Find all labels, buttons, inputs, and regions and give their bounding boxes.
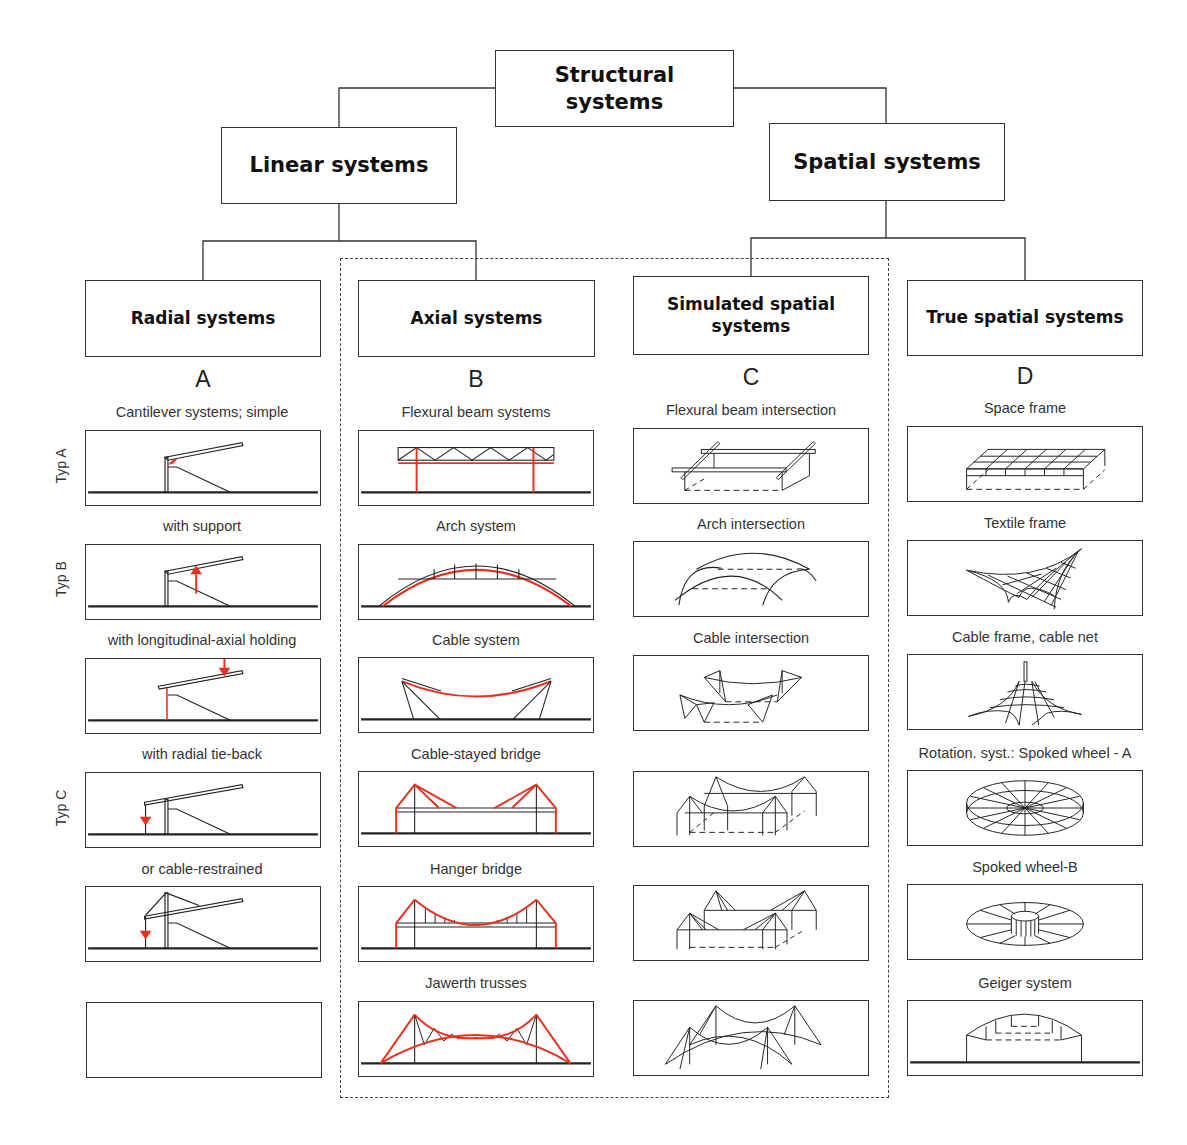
caption-d1: Space frame [895, 400, 1155, 416]
true-spatial-systems-box: True spatial systems [907, 280, 1143, 356]
radial-systems-box: Radial systems [85, 280, 321, 357]
drawing-flexural-beam [358, 430, 594, 506]
caption-a2: with support [72, 518, 332, 534]
drawing-cable-net [907, 654, 1143, 730]
caption-d5: Spoked wheel-B [895, 859, 1155, 875]
drawing-cantilever-simple [85, 430, 321, 506]
caption-b3: Cable system [346, 632, 606, 648]
drawing-cantilever-longitudinal-axial-holding [85, 658, 321, 734]
caption-a5: or cable-restrained [72, 861, 332, 877]
linear-systems-box: Linear systems [221, 127, 457, 204]
column-letter-a: A [85, 366, 321, 393]
drawing-cable-intersection [633, 655, 869, 731]
structural-systems-title: Structural systems [540, 62, 690, 115]
drawing-cable [358, 657, 594, 733]
radial-systems-label: Radial systems [131, 308, 276, 329]
caption-b5: Hanger bridge [346, 861, 606, 877]
structural-systems-box: Structural systems [495, 50, 734, 127]
caption-d3: Cable frame, cable net [895, 629, 1155, 645]
caption-b2: Arch system [346, 518, 606, 534]
true-spatial-systems-label: True spatial systems [926, 307, 1123, 328]
type-label-c: Typ C [53, 783, 69, 833]
drawing-geiger-system [907, 1000, 1143, 1076]
drawing-cable-stayed-bridge [358, 771, 594, 847]
caption-d4: Rotation. syst.: Spoked wheel - A [895, 745, 1155, 761]
drawing-flexural-beam-intersection [633, 428, 869, 504]
caption-d2: Textile frame [895, 515, 1155, 531]
caption-a3: with longitudinal-axial holding [72, 632, 332, 648]
drawing-hanger-intersection [633, 885, 869, 961]
simulated-spatial-systems-label: Simulated spatial systems [661, 294, 841, 337]
drawing-hanger-bridge [358, 886, 594, 962]
caption-c3: Cable intersection [621, 630, 881, 646]
caption-d6: Geiger system [895, 975, 1155, 991]
axial-systems-label: Axial systems [411, 308, 543, 329]
caption-a4: with radial tie-back [72, 746, 332, 762]
column-letter-b: B [358, 366, 594, 393]
caption-b1: Flexural beam systems [346, 404, 606, 420]
column-letter-d: D [907, 363, 1143, 390]
drawing-arch-intersection [633, 541, 869, 617]
drawing-textile-frame [907, 540, 1143, 616]
caption-c2: Arch intersection [621, 516, 881, 532]
drawing-cantilever-radial-tie-back [85, 772, 321, 848]
drawing-jawerth-intersection [633, 1000, 869, 1076]
drawing-empty [86, 1002, 322, 1078]
caption-b4: Cable-stayed bridge [346, 746, 606, 762]
axial-systems-box: Axial systems [358, 280, 595, 357]
drawing-cantilever-cable-restrained [85, 886, 321, 962]
caption-c1: Flexural beam intersection [621, 402, 881, 418]
simulated-spatial-systems-box: Simulated spatial systems [633, 276, 869, 355]
linear-systems-label: Linear systems [250, 152, 429, 178]
drawing-spoked-wheel-a [907, 770, 1143, 846]
drawing-cantilever-with-support [85, 544, 321, 620]
caption-b6: Jawerth trusses [346, 975, 606, 991]
type-label-a: Typ A [53, 441, 69, 491]
drawing-jawerth-trusses [358, 1001, 594, 1077]
type-label-b: Typ B [53, 554, 69, 604]
drawing-spoked-wheel-b [907, 884, 1143, 960]
drawing-space-frame [907, 426, 1143, 502]
column-letter-c: C [633, 364, 869, 391]
caption-a1: Cantilever systems; simple [72, 404, 332, 420]
drawing-arch [358, 544, 594, 620]
drawing-cable-stayed-intersection [633, 771, 869, 847]
spatial-systems-label: Spatial systems [793, 149, 981, 175]
spatial-systems-box: Spatial systems [769, 123, 1005, 201]
